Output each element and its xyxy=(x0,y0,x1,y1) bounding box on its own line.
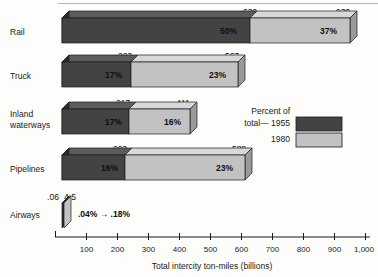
segment-top-truck-1980 xyxy=(131,55,245,62)
x-tick-label-500: 500 xyxy=(204,245,218,254)
category-label-airways: Airways xyxy=(10,210,40,220)
legend-title-line2: total— 1955 xyxy=(244,118,290,128)
legend: Percent of total— 1955 1980 xyxy=(244,106,342,147)
bar-row-inland-waterways[interactable]: Inland waterways 217 411 17% 16% xyxy=(9,98,197,134)
x-tick-label-100: 100 xyxy=(80,245,94,254)
segment-top-inland-1980 xyxy=(129,102,197,109)
category-label-truck: Truck xyxy=(10,71,32,81)
percent-label-inland-1980: 16% xyxy=(164,117,181,127)
x-tick-label-300: 300 xyxy=(142,245,156,254)
legend-swatch-1955[interactable] xyxy=(296,117,342,131)
bar-row-pipelines[interactable]: Pipelines 203 588 16% 23% xyxy=(10,144,252,180)
percent-label-rail-1980: 37% xyxy=(320,26,337,36)
x-tick-label-800: 800 xyxy=(297,245,311,254)
x-tick-label-1000: 1,000 xyxy=(354,245,375,254)
legend-swatch-1980[interactable] xyxy=(296,133,342,147)
value-label-airways-1955: .06 xyxy=(47,192,59,202)
x-tick-label-700: 700 xyxy=(266,245,280,254)
segment-top-inland-1955 xyxy=(62,102,136,109)
percent-label-truck-1980: 23% xyxy=(209,70,226,80)
percent-label-inland-1955: 17% xyxy=(105,117,122,127)
x-axis: 100 200 300 400 500 600 700 800 900 1,00… xyxy=(55,231,375,271)
segment-top-rail-1980 xyxy=(250,11,357,18)
segment-top-truck-1955 xyxy=(62,55,138,62)
bar-row-rail[interactable]: Rail 630 930 50% 37% xyxy=(10,7,357,43)
x-axis-title: Total intercity ton-miles (billions) xyxy=(152,261,273,271)
category-label-inland-waterways-line1: Inland xyxy=(10,109,33,119)
category-label-inland-waterways-line2: waterways xyxy=(9,120,50,130)
percent-label-pipelines-1955: 16% xyxy=(101,163,118,173)
x-tick-label-900: 900 xyxy=(328,245,342,254)
segment-top-rail-1955 xyxy=(62,11,257,18)
x-tick-label-200: 200 xyxy=(111,245,125,254)
segment-top-pipelines-1980 xyxy=(125,148,252,155)
bar-chart: Rail 630 930 50% 37% Truck 223 567 17% 2… xyxy=(0,0,378,277)
legend-title-line1: Percent of xyxy=(251,106,290,116)
legend-label-1980: 1980 xyxy=(271,134,290,144)
bar-row-airways[interactable]: Airways .06 4.5 .04% → .18% xyxy=(10,192,130,228)
category-label-pipelines: Pipelines xyxy=(10,164,45,174)
segment-top-pipelines-1955 xyxy=(62,148,132,155)
annotation-airways-change: .04% → .18% xyxy=(78,209,130,219)
bar-row-truck[interactable]: Truck 223 567 17% 23% xyxy=(10,51,245,87)
x-tick-label-600: 600 xyxy=(235,245,249,254)
percent-label-pipelines-1980: 23% xyxy=(216,163,233,173)
x-tick-label-400: 400 xyxy=(173,245,187,254)
percent-label-truck-1955: 17% xyxy=(105,70,122,80)
category-label-rail: Rail xyxy=(10,27,25,37)
percent-label-rail-1955: 50% xyxy=(220,26,237,36)
